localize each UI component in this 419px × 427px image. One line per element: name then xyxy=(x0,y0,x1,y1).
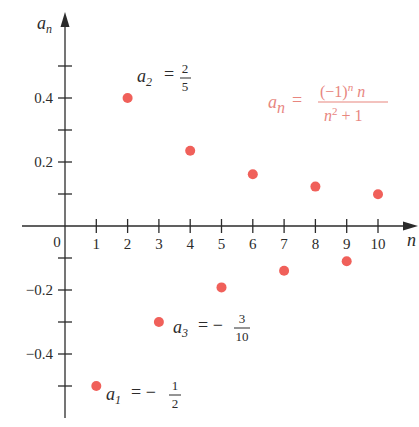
point-a2 xyxy=(123,93,133,103)
x-tick-label: 10 xyxy=(371,236,386,252)
point-a6 xyxy=(248,169,258,179)
sequence-plot: 0.4 0.2 −0.2 −0.4 0 1 2 3 4 5 6 7 8 9 10… xyxy=(0,0,419,427)
svg-text:n2 + 1: n2 + 1 xyxy=(324,105,363,124)
point-a3 xyxy=(154,317,164,327)
point-a5 xyxy=(217,282,227,292)
annotation-a1: a1 = − 1 2 xyxy=(106,378,181,411)
point-a1 xyxy=(91,381,101,391)
svg-text:2: 2 xyxy=(182,61,189,76)
svg-text:a2: a2 xyxy=(137,66,152,89)
y-axis-arrow-icon xyxy=(61,12,70,27)
data-points xyxy=(91,93,383,391)
y-tick-label: 0.4 xyxy=(34,90,53,106)
svg-text:5: 5 xyxy=(182,79,189,94)
x-tick-label: 3 xyxy=(155,236,163,252)
x-tick-label: 2 xyxy=(124,236,132,252)
x-tick-label: 5 xyxy=(218,236,226,252)
y-tick-label: 0.2 xyxy=(34,154,53,170)
point-a7 xyxy=(279,266,289,276)
x-tick-label: 9 xyxy=(343,236,351,252)
annotation-a2: a2 = 2 5 xyxy=(137,61,191,94)
x-tick-label: 1 xyxy=(93,236,101,252)
y-axis-label: an xyxy=(37,13,52,36)
x-tick-label: 8 xyxy=(312,236,320,252)
y-tick-label: −0.4 xyxy=(26,346,54,362)
point-a9 xyxy=(342,256,352,266)
svg-text:a1: a1 xyxy=(106,384,121,407)
svg-text:=: = xyxy=(164,64,174,84)
svg-text:an: an xyxy=(268,92,285,116)
svg-text:3: 3 xyxy=(239,311,246,326)
point-a8 xyxy=(310,182,320,192)
svg-text:= −: = − xyxy=(198,315,223,335)
annotation-a3: a3 = − 3 10 xyxy=(173,311,250,344)
x-tick-label: 6 xyxy=(249,236,257,252)
svg-text:a3: a3 xyxy=(173,317,188,340)
svg-text:1: 1 xyxy=(172,378,179,393)
y-tick-label: −0.2 xyxy=(26,282,53,298)
svg-text:10: 10 xyxy=(236,329,249,344)
svg-text:=: = xyxy=(292,90,302,110)
point-a10 xyxy=(373,189,383,199)
origin-label: 0 xyxy=(53,234,61,250)
svg-text:= −: = − xyxy=(131,382,156,402)
formula-label: an = (−1)n n n2 + 1 xyxy=(268,81,388,124)
svg-text:2: 2 xyxy=(172,396,179,411)
x-axis-label: n xyxy=(407,230,416,250)
x-tick-label: 7 xyxy=(280,236,288,252)
x-tick-label: 4 xyxy=(186,236,194,252)
point-a4 xyxy=(185,146,195,156)
svg-text:(−1)n n: (−1)n n xyxy=(320,81,365,101)
